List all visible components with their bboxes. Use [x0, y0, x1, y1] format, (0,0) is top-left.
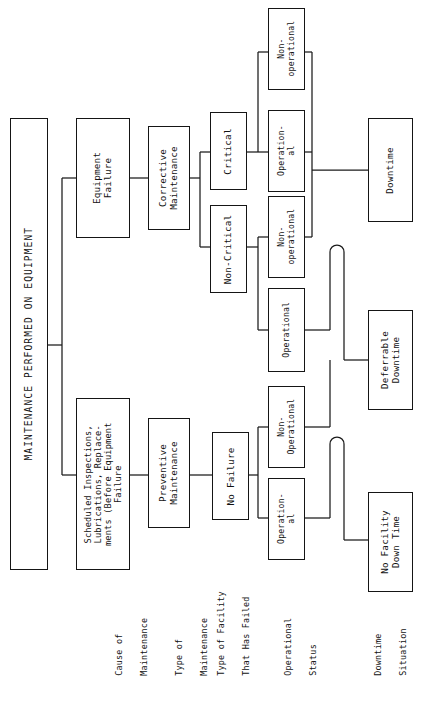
node-downtime: Downtime — [368, 118, 413, 222]
row-label-type-of-facility-line2: That Has Failed — [241, 596, 251, 675]
node-critical-operational: Operation- al — [268, 110, 305, 192]
row-label-cause-of-maintenance-line2: Maintenance — [139, 618, 149, 676]
row-label-downtime-situation: Downtime Situation — [360, 628, 421, 697]
row-label-type-of-facility-line1: Type of Facility — [216, 591, 226, 676]
node-downtime-label: Downtime — [385, 147, 396, 193]
diagram-canvas: MAINTENANCE PERFORMED ON EQUIPMENT Equip… — [0, 0, 425, 703]
node-critical-non-operational: Non- operational — [268, 8, 305, 90]
node-noncritical-operational: Operational — [268, 288, 305, 372]
node-nofailure-non-operational-label: Non- Operational — [277, 399, 296, 455]
row-label-downtime-situation-line1: Downtime — [373, 633, 383, 675]
root-node-maintenance-performed-on-equipment: MAINTENANCE PERFORMED ON EQUIPMENT — [10, 118, 48, 570]
node-noncritical-operational-label: Operational — [282, 302, 292, 358]
node-noncritical-non-operational: Non- operational — [268, 196, 305, 278]
node-scheduled-inspections-label: Scheduled Inspections, Lubrications, Rep… — [83, 422, 124, 546]
node-no-failure: No Failure — [212, 432, 249, 520]
node-deferrable-downtime: Deferrable Downtime — [368, 310, 413, 410]
row-label-operational-status-line1: Operational — [283, 618, 293, 676]
node-preventive-maintenance-label: Preventive Maintenance — [158, 441, 180, 505]
row-label-type-of-facility-that-has-failed: Type of Facility That Has Failed — [203, 591, 264, 697]
node-nofailure-operational-label: Operation- al — [277, 494, 296, 545]
node-nofailure-operational: Operation- al — [268, 478, 305, 560]
node-corrective-maintenance-label: Corrective Maintenance — [158, 146, 180, 210]
row-label-downtime-situation-line2: Situation — [398, 628, 408, 676]
row-label-type-of-maintenance-line1: Type of — [174, 639, 184, 676]
root-node-label: MAINTENANCE PERFORMED ON EQUIPMENT — [23, 227, 34, 461]
node-critical-non-operational-label: Non- operational — [277, 21, 296, 77]
node-no-failure-label: No Failure — [225, 447, 236, 505]
node-no-facility-down-time-label: No Facility Down Time — [380, 510, 402, 574]
node-equipment-failure: Equipment Failure — [76, 118, 130, 238]
node-nofailure-non-operational: Non- Operational — [268, 386, 305, 468]
node-equipment-failure-label: Equipment Failure — [92, 152, 114, 204]
node-non-critical: Non-Critical — [210, 205, 247, 293]
node-critical: Critical — [210, 112, 247, 190]
node-non-critical-label: Non-Critical — [223, 214, 234, 284]
node-corrective-maintenance: Corrective Maintenance — [148, 126, 190, 230]
row-label-cause-of-maintenance-line1: Cause of — [114, 633, 124, 675]
node-critical-label: Critical — [223, 128, 234, 174]
row-label-operational-status: Operational Status — [270, 618, 331, 697]
row-label-operational-status-line2: Status — [308, 644, 318, 676]
node-deferrable-downtime-label: Deferrable Downtime — [380, 331, 402, 389]
node-noncritical-non-operational-label: Non- operational — [277, 209, 296, 265]
row-label-cause-of-maintenance: Cause of Maintenance — [101, 618, 162, 697]
node-scheduled-inspections: Scheduled Inspections, Lubrications, Rep… — [76, 398, 130, 570]
node-critical-operational-label: Operation- al — [277, 126, 296, 177]
node-no-facility-down-time: No Facility Down Time — [368, 492, 413, 592]
node-preventive-maintenance: Preventive Maintenance — [148, 418, 190, 528]
